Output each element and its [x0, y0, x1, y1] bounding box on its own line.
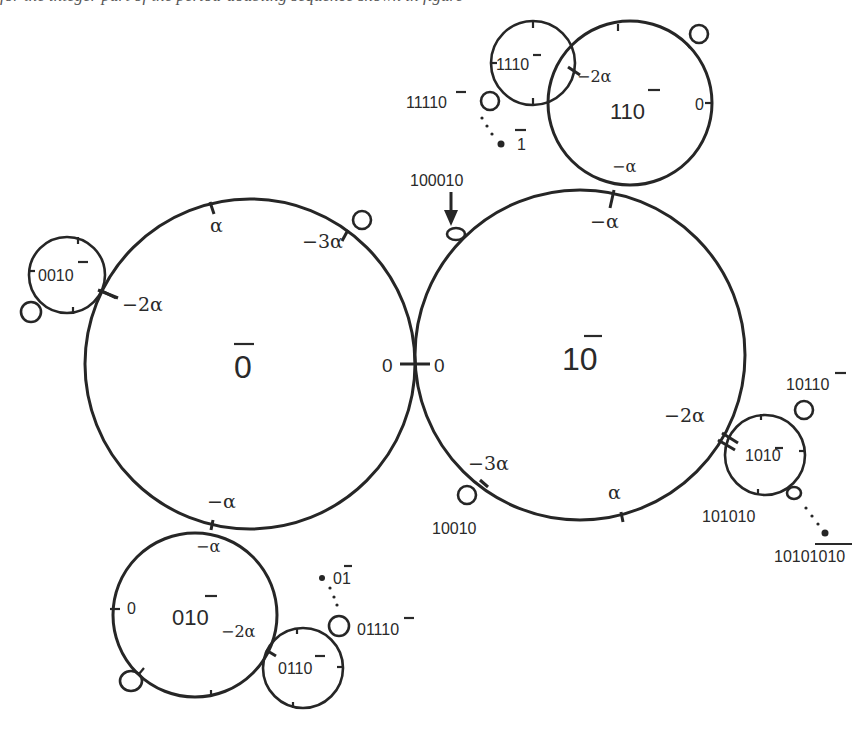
tick-label: −3α [302, 230, 343, 252]
circle-1110bar-label: 1110 [496, 56, 529, 73]
tick-label: −α [196, 537, 220, 556]
point-label-101010bar: 101010 [702, 508, 755, 525]
tick-label: −2α [664, 404, 705, 426]
tick-label: 0 [434, 355, 445, 376]
tick-label: −3α [468, 452, 509, 474]
tick-label: −2α [122, 293, 163, 315]
point-label-10010bar: 10010 [432, 520, 477, 537]
point-label-10110bar: 10110 [786, 376, 829, 393]
tick-label: −α [207, 490, 236, 512]
point-label-01110bar: 01110 [357, 621, 399, 638]
tick-label: α [608, 481, 621, 503]
diagram-canvas: 0 α −3α −2α 0 −α 10 0 −α −2α −3α α 10001… [0, 0, 868, 730]
tick-label: 0 [695, 96, 704, 113]
circle-010bar: 010 −α 0 −2α [110, 533, 277, 697]
tick-label: 0 [127, 600, 136, 617]
circle-110bar: 110 −2α 0 −α [548, 21, 713, 185]
circle-10bar: 10 0 −α −2α −3α α 100010 10010 [410, 172, 745, 537]
circle-10bar-label: 10 [562, 341, 598, 377]
circle-010bar-label: 010 [172, 605, 209, 630]
point-label-01bar: 01 [333, 570, 351, 587]
circle-0110bar: 0110 01110 01 [263, 566, 414, 708]
circle-0010bar: 0010 [21, 237, 116, 322]
circle-1010bar: 1010 10110 101010 10101010 [702, 373, 852, 565]
circle-0010bar-label: 0010 [38, 267, 74, 284]
tick-label: −α [612, 157, 636, 176]
point-label-100010bar: 100010 [410, 172, 463, 189]
circle-0bar-label: 0 [234, 349, 252, 385]
tick-label: −2α [577, 67, 612, 86]
tick-label: −2α [221, 622, 256, 641]
tick-label: α [210, 214, 223, 236]
tick-label: 0 [382, 355, 393, 376]
tick-label: −α [590, 210, 619, 232]
point-label-1bar: 1 [517, 136, 526, 153]
circle-1010bar-label: 1010 [745, 447, 781, 464]
circle-110bar-label: 110 [610, 99, 645, 124]
point-label-11110bar: 11110 [406, 94, 447, 111]
circle-0110bar-label: 0110 [278, 660, 313, 677]
circle-0bar: 0 α −3α −2α 0 −α [85, 199, 430, 530]
point-label-1010-10bar: 10101010 [774, 548, 845, 565]
